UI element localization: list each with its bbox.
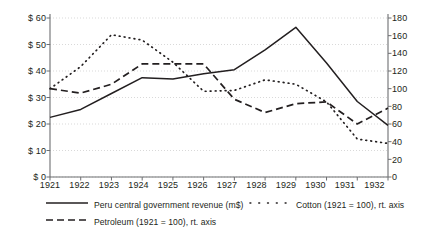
chart-container: $ 60 $ 50 $ 40 $ 30 $ 20 $ 10 $ 0 180 16…: [0, 0, 426, 236]
legend-label-revenue: Peru central government revenue (m$): [94, 200, 243, 210]
series-line: [50, 27, 388, 125]
legend-item-cotton[interactable]: Cotton (1921 = 100), rt. axis: [248, 199, 404, 210]
axis-ticks: [47, 18, 392, 181]
legend-label-cotton: Cotton (1921 = 100), rt. axis: [296, 200, 404, 210]
series-line: [50, 35, 388, 144]
legend-swatch-solid: [46, 201, 88, 209]
legend-item-revenue[interactable]: Peru central government revenue (m$): [46, 199, 243, 210]
legend-label-petroleum: Petroleum (1921 = 100), rt. axis: [94, 217, 216, 227]
gridlines: [50, 18, 388, 177]
legend-swatch-dotted: [248, 201, 290, 209]
axis-lines: [50, 14, 388, 177]
legend-swatch-dashed: [46, 218, 88, 226]
legend-item-petroleum[interactable]: Petroleum (1921 = 100), rt. axis: [46, 216, 216, 227]
